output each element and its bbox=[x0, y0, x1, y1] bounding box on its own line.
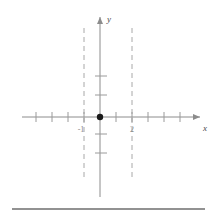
x-tick-label-minus-one: -1 bbox=[78, 125, 85, 134]
y-axis bbox=[97, 17, 103, 197]
filled-dot-icon bbox=[97, 114, 103, 120]
y-axis-label: y bbox=[106, 14, 111, 24]
x-axis bbox=[22, 114, 200, 120]
coordinate-plane-figure: x y -1 2 bbox=[0, 0, 217, 216]
x-tick-label-two: 2 bbox=[130, 125, 134, 134]
arrow-up-icon bbox=[97, 17, 103, 24]
x-axis-label: x bbox=[202, 123, 207, 133]
arrow-right-icon bbox=[193, 114, 200, 120]
graph-canvas: x y -1 2 bbox=[0, 0, 217, 216]
